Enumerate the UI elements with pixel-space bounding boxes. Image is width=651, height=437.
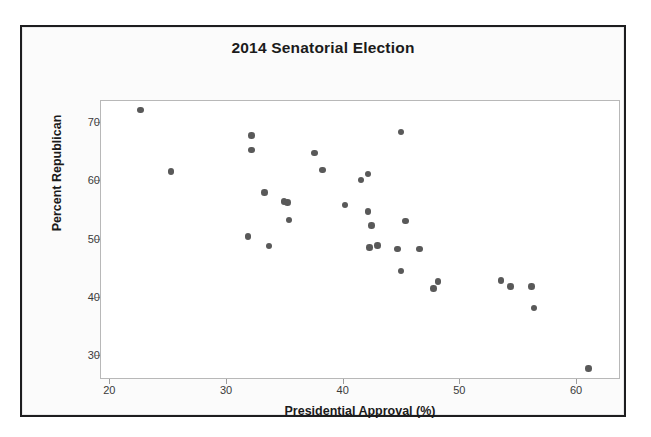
scatter-point [430, 285, 437, 292]
scatter-point [286, 217, 293, 224]
scatter-point [398, 129, 405, 136]
x-tick-label: 50 [439, 384, 479, 396]
y-tick-label: 60 [70, 174, 100, 186]
page-background: 2014 Senatorial Election 3040506070 Perc… [0, 0, 651, 437]
x-tick-label: 60 [556, 384, 596, 396]
y-tick-label: 40 [70, 291, 100, 303]
scatter-point [248, 132, 255, 139]
scatter-point [507, 283, 514, 290]
scatter-point [416, 246, 423, 253]
x-tick-label: 30 [206, 384, 246, 396]
scatter-point [284, 199, 291, 206]
scatter-point [394, 246, 401, 253]
scatter-point [585, 365, 592, 372]
scatter-point [374, 242, 381, 249]
scatter-point [435, 278, 442, 285]
scatter-point [358, 177, 365, 184]
scatter-point [248, 147, 255, 154]
plot-panel [100, 100, 620, 379]
scatter-point [342, 202, 349, 209]
scatter-point [402, 218, 409, 225]
scatter-point [266, 243, 273, 250]
scatter-point [245, 233, 252, 240]
scatter-point [365, 171, 372, 178]
y-tick-label: 30 [70, 349, 100, 361]
x-tick-label: 20 [89, 384, 129, 396]
scatter-point [365, 208, 372, 215]
scatter-points-layer [101, 101, 619, 378]
figure-frame: 2014 Senatorial Election 3040506070 Perc… [20, 25, 626, 417]
scatter-point [261, 189, 268, 196]
y-tick-label: 70 [70, 116, 100, 128]
y-tick-label: 50 [70, 233, 100, 245]
y-axis-title: Percent Republican [50, 53, 64, 293]
scatter-point [319, 167, 326, 174]
scatter-point [311, 150, 318, 157]
scatter-point [398, 268, 405, 275]
scatter-point [168, 168, 175, 175]
scatter-point [498, 277, 505, 284]
scatter-point [366, 244, 373, 251]
x-tick-label: 40 [323, 384, 363, 396]
scatter-point [528, 283, 535, 290]
x-axis-title: Presidential Approval (%) [100, 404, 620, 418]
scatter-point [137, 107, 144, 114]
scatter-point [368, 222, 375, 229]
chart-title: 2014 Senatorial Election [22, 39, 624, 57]
scatter-point [531, 305, 538, 312]
